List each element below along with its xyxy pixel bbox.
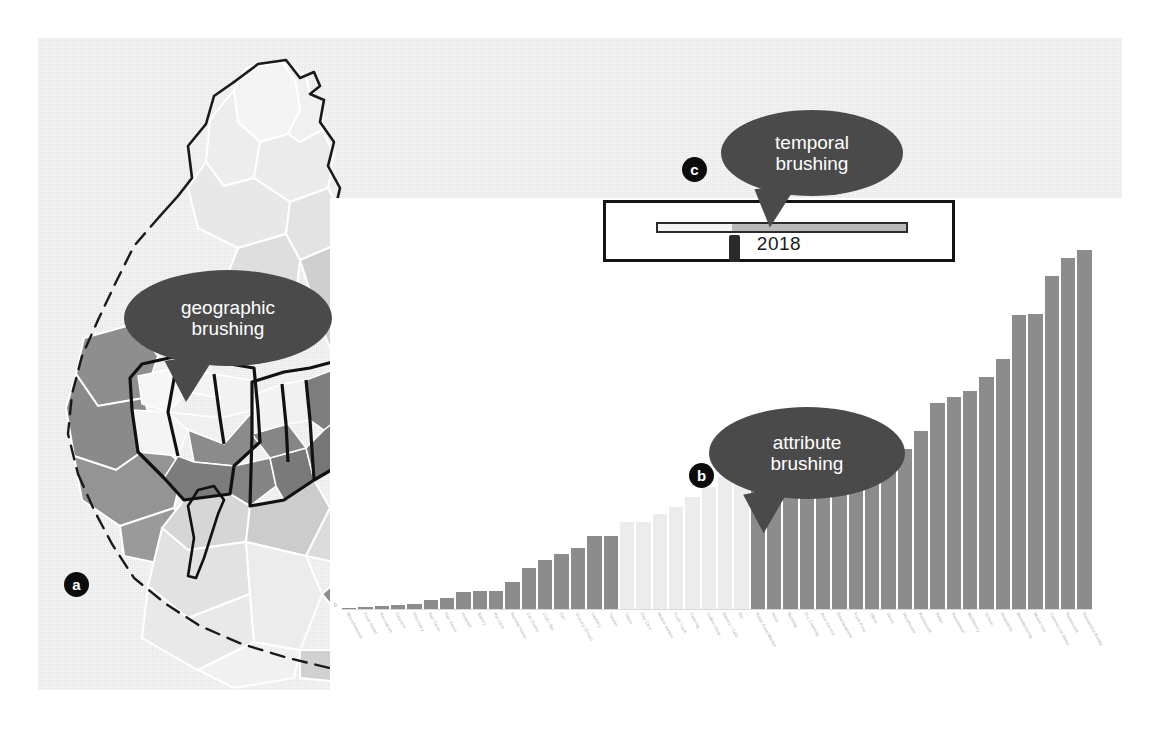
bar[interactable] — [456, 592, 470, 610]
bar[interactable] — [914, 431, 928, 610]
panel-badge-a: a — [64, 572, 89, 597]
bar[interactable] — [669, 507, 683, 610]
x-axis-label: Tattoo — [620, 610, 634, 690]
callout-temporal-tail — [754, 183, 803, 229]
panel-badge-b: b — [689, 463, 714, 488]
callout-attribute-line2: brushing — [771, 453, 844, 474]
temporal-slider-value: 2018 — [606, 233, 952, 255]
bar[interactable] — [473, 591, 487, 610]
bar[interactable] — [1012, 315, 1026, 610]
x-axis-label: Pharmacy — [407, 610, 421, 690]
x-axis-label: Dry Cleaning — [800, 610, 814, 690]
x-axis-label: Grocery (Small) — [571, 610, 585, 690]
callout-geographic-line1: geographic — [181, 297, 275, 318]
bar[interactable] — [1028, 314, 1042, 611]
bar[interactable] — [587, 536, 601, 610]
x-axis-label: Retail — [930, 610, 944, 690]
x-axis-label: Hotel — [767, 610, 781, 690]
x-axis-label: Auto Service — [816, 610, 830, 690]
x-axis-label: Hospital — [456, 610, 470, 690]
x-axis-label: Pet Care — [489, 610, 503, 690]
x-axis-label: Food Prep — [849, 610, 863, 690]
x-axis-label: Deli — [554, 610, 568, 690]
bar[interactable] — [489, 591, 503, 611]
bar[interactable] — [620, 522, 634, 610]
x-axis-label: Catering — [685, 610, 699, 690]
x-axis-label: School — [979, 610, 993, 690]
x-axis-label: Hospitality — [996, 610, 1010, 690]
x-axis-label: Salon — [881, 610, 895, 690]
x-axis-label: Food Stand — [358, 610, 372, 690]
x-axis-label: Building — [783, 610, 797, 690]
x-axis-label: Entertainment — [832, 610, 846, 690]
x-axis-label: Nursing Home — [505, 610, 519, 690]
callout-geographic-tail — [165, 352, 226, 405]
x-axis-label: Multifamily — [963, 610, 977, 690]
x-axis-label: Retail Food Market — [751, 610, 765, 690]
x-axis-label: Warehouse — [898, 610, 912, 690]
bar-plot-area[interactable] — [342, 212, 1092, 610]
bar[interactable] — [571, 548, 585, 610]
callout-geographic-brushing: geographic brushing — [124, 270, 332, 366]
y-axis-zero-label: 0 — [334, 602, 337, 608]
x-axis-label: Club / Bar — [538, 610, 552, 690]
x-axis-label: Car Dealer — [522, 610, 536, 690]
bar[interactable] — [505, 582, 519, 610]
bar[interactable] — [636, 522, 650, 610]
bar[interactable] — [734, 469, 748, 610]
callout-attribute-line1: attribute — [771, 432, 844, 453]
callout-geographic-line2: brushing — [181, 318, 275, 339]
panel-badge-c: c — [682, 157, 707, 182]
x-axis-label: Recreation — [375, 610, 389, 690]
x-axis-label: Residential Rental — [1077, 610, 1091, 690]
region-south-4 — [246, 542, 322, 650]
x-axis-label: Hair Salon — [440, 610, 454, 690]
x-axis-label: Food Truck — [669, 610, 683, 690]
x-axis-label: Mixed Use — [1028, 610, 1042, 690]
x-axis-label: Laundry — [587, 610, 601, 690]
x-axis-label: Restaurant — [914, 610, 928, 690]
x-axis-label: Bar — [734, 610, 748, 690]
bar[interactable] — [653, 514, 667, 610]
bar[interactable] — [554, 554, 568, 610]
bar[interactable] — [522, 568, 536, 610]
x-axis-label: Nail Salon — [424, 610, 438, 690]
bar[interactable] — [979, 377, 993, 610]
bar[interactable] — [1045, 276, 1059, 610]
bar-series[interactable] — [342, 212, 1092, 610]
bar[interactable] — [996, 359, 1010, 610]
x-axis-label: Theater — [604, 610, 618, 690]
callout-temporal-line2: brushing — [775, 153, 849, 174]
x-axis-label: Bakery / Cafe — [718, 610, 732, 690]
x-axis-label: Daycare — [391, 610, 405, 690]
bar[interactable] — [963, 391, 977, 610]
bar[interactable] — [930, 403, 944, 610]
callout-attribute-brushing: attribute brushing — [709, 407, 905, 499]
callout-temporal-line1: temporal — [775, 132, 849, 153]
x-axis-label: Office — [865, 610, 879, 690]
x-axis-label: Coffee Shop — [702, 610, 716, 690]
bar[interactable] — [702, 487, 716, 610]
x-axis-label: Day Care — [636, 610, 650, 690]
bar[interactable] — [1077, 250, 1091, 610]
x-axis-label: Manufacturing — [1012, 610, 1026, 690]
x-axis-label: Residential — [947, 610, 961, 690]
x-axis-label: Bakery — [473, 610, 487, 690]
x-axis-label: Mobile Vendor — [653, 610, 667, 690]
callout-temporal-brushing: temporal brushing — [721, 110, 903, 196]
x-axis-label: Restaurant — [1061, 610, 1075, 690]
bar[interactable] — [538, 560, 552, 610]
bar[interactable] — [947, 397, 961, 610]
bar[interactable] — [604, 536, 618, 610]
x-axis-label: Commercial Retail — [1045, 610, 1059, 690]
bar[interactable] — [718, 477, 732, 610]
bar[interactable] — [1061, 258, 1075, 610]
x-axis-label: Miscellaneous — [342, 610, 356, 690]
bar[interactable] — [898, 449, 912, 610]
bar[interactable] — [685, 497, 699, 610]
figure-root: 0 MiscellaneousFood StandRecreationDayca… — [0, 0, 1155, 736]
x-axis-category-labels: MiscellaneousFood StandRecreationDaycare… — [342, 610, 1092, 690]
